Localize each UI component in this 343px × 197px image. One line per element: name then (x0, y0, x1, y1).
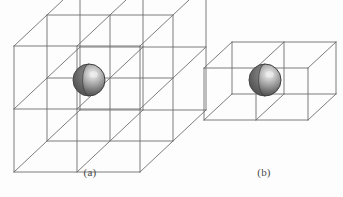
lattice-edge (308, 94, 336, 120)
lattice-edge (308, 42, 336, 68)
panel-a-wireframe (14, 0, 206, 172)
panel-b-sphere (249, 64, 281, 96)
lattice-edge (256, 42, 284, 68)
lattice-edge (204, 94, 232, 120)
panel-b-caption: (b) (234, 166, 294, 178)
sphere-highlight (89, 71, 97, 77)
panel-a-sphere (73, 64, 105, 96)
panel-a-caption: (a) (60, 166, 120, 178)
sphere-highlight (265, 71, 273, 77)
lattice-edge (204, 42, 232, 68)
lattice-edge (256, 94, 284, 120)
figure-container: (a) (b) (0, 0, 343, 197)
